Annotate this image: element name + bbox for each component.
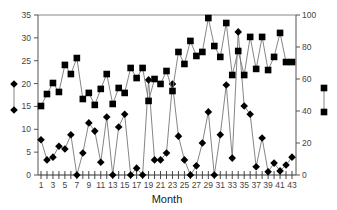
square-marker — [247, 34, 254, 41]
diamond-marker — [222, 81, 230, 89]
x-tick-label: 15 — [120, 180, 130, 190]
y-right-tick-label: 80 — [302, 42, 312, 52]
x-tick-label: 37 — [251, 180, 261, 190]
square-marker — [62, 62, 69, 69]
square-marker — [217, 54, 224, 61]
diamond-series — [37, 28, 296, 179]
square-marker — [283, 59, 290, 66]
diamond-marker — [234, 28, 242, 36]
square-marker — [193, 53, 200, 60]
square-marker — [86, 90, 93, 97]
square-marker — [109, 101, 116, 108]
diamond-marker — [109, 171, 117, 179]
x-tick-label: 25 — [180, 180, 190, 190]
diamond-marker — [216, 131, 224, 139]
y-left-tick-label: 20 — [22, 79, 32, 89]
x-tick-label: 43 — [287, 180, 297, 190]
y-left-tick-label: 15 — [22, 101, 32, 111]
diamond-marker — [67, 131, 75, 139]
diamond-marker — [85, 119, 93, 127]
diamond-marker — [240, 102, 248, 110]
x-tick-label: 3 — [51, 180, 56, 190]
square-marker — [38, 103, 45, 110]
diamond-marker — [121, 110, 129, 118]
diamond-marker — [258, 134, 266, 142]
diamond-marker — [211, 171, 219, 179]
square-series-line — [41, 18, 292, 106]
diamond-marker — [193, 162, 201, 170]
square-marker — [97, 86, 104, 93]
legend-square-marker — [321, 109, 328, 116]
square-marker — [133, 75, 140, 82]
diamond-marker — [270, 159, 278, 167]
y-left-tick-label: 0 — [26, 170, 31, 180]
diamond-marker — [288, 153, 296, 161]
diamond-marker — [73, 171, 81, 179]
square-marker — [205, 15, 212, 22]
legend — [10, 80, 327, 115]
square-marker — [169, 88, 176, 95]
square-marker — [157, 81, 164, 88]
square-marker — [181, 61, 188, 68]
x-tick-label: 39 — [263, 180, 273, 190]
square-marker — [199, 49, 206, 56]
y-right-tick-label: 40 — [302, 106, 312, 116]
diamond-marker — [97, 158, 105, 166]
x-tick-label: 7 — [74, 180, 79, 190]
square-marker — [103, 71, 110, 78]
square-marker — [259, 34, 266, 41]
diamond-marker — [252, 163, 260, 171]
square-marker — [223, 20, 230, 27]
x-tick-label: 31 — [216, 180, 226, 190]
square-marker — [115, 85, 122, 92]
square-marker — [127, 65, 134, 72]
x-tick-label: 29 — [204, 180, 214, 190]
chart: 0510152025303502040608010013579111315171… — [0, 0, 337, 210]
square-marker — [253, 66, 260, 73]
diamond-marker — [181, 156, 189, 164]
square-marker — [211, 43, 218, 50]
square-marker — [68, 71, 75, 78]
x-tick-label: 41 — [275, 180, 285, 190]
square-marker — [80, 96, 87, 103]
y-left-tick-label: 30 — [22, 33, 32, 43]
square-marker — [277, 30, 284, 37]
square-marker — [151, 76, 158, 83]
square-series — [38, 15, 296, 110]
square-marker — [44, 91, 51, 98]
diamond-marker — [246, 110, 254, 118]
diamond-marker — [115, 123, 123, 131]
y-right-tick-label: 100 — [302, 10, 316, 20]
x-tick-label: 23 — [168, 180, 178, 190]
x-tick-label: 13 — [108, 180, 118, 190]
legend-diamond-marker — [10, 80, 18, 88]
diamond-marker — [228, 154, 236, 162]
square-marker — [74, 55, 81, 62]
y-right-tick-label: 20 — [302, 138, 312, 148]
diamond-marker — [91, 127, 99, 135]
diamond-marker — [205, 108, 213, 116]
square-marker — [229, 72, 236, 79]
y-left-tick-label: 25 — [22, 56, 32, 66]
square-marker — [187, 38, 194, 45]
square-marker — [50, 80, 57, 87]
y-left-tick-label: 35 — [22, 10, 32, 20]
y-left-tick-label: 5 — [26, 147, 31, 157]
square-marker — [235, 48, 242, 55]
x-axis-title: Month — [152, 193, 183, 205]
y-left-tick-label: 10 — [22, 124, 32, 134]
diamond-marker — [199, 139, 207, 147]
square-marker — [139, 65, 146, 72]
y-right-tick-label: 60 — [302, 74, 312, 84]
x-tick-label: 9 — [86, 180, 91, 190]
x-tick-label: 35 — [239, 180, 249, 190]
diamond-marker — [103, 113, 111, 121]
square-marker — [271, 54, 278, 61]
legend-diamond-marker — [10, 106, 18, 114]
square-marker — [265, 67, 272, 74]
diamond-marker — [187, 171, 195, 179]
x-tick-label: 5 — [63, 180, 68, 190]
square-marker — [241, 72, 248, 79]
diamond-marker — [175, 132, 183, 140]
square-marker — [56, 89, 63, 96]
